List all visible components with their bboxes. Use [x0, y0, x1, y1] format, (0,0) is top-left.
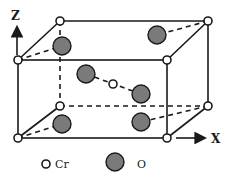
cr-atom	[14, 56, 22, 64]
x-axis-label: X	[211, 132, 221, 146]
o-atom	[132, 113, 150, 131]
o-atom	[77, 65, 95, 83]
cr-atom	[56, 102, 64, 110]
cr-atom	[14, 134, 22, 142]
legend-o-label: O	[137, 158, 146, 171]
o-atom	[53, 37, 71, 55]
legend-cr-label: Cr	[55, 158, 69, 171]
oxygen-atoms	[53, 26, 166, 133]
legend-o-symbol	[106, 153, 124, 171]
o-atom	[132, 85, 150, 103]
crystal-structure-diagram: Z X	[0, 0, 230, 182]
legend: Cr O	[42, 153, 146, 171]
o-atom	[53, 115, 71, 133]
o-atom	[148, 26, 166, 44]
x-axis: X	[176, 132, 221, 146]
legend-cr-symbol	[42, 160, 50, 168]
z-axis-label: Z	[11, 9, 20, 23]
cr-atom	[109, 80, 117, 88]
cr-atom	[163, 56, 171, 64]
cr-atom	[163, 134, 171, 142]
cr-atom	[56, 17, 64, 25]
z-axis: Z	[11, 9, 20, 55]
cr-atom	[204, 17, 212, 25]
cr-atom	[204, 102, 212, 110]
